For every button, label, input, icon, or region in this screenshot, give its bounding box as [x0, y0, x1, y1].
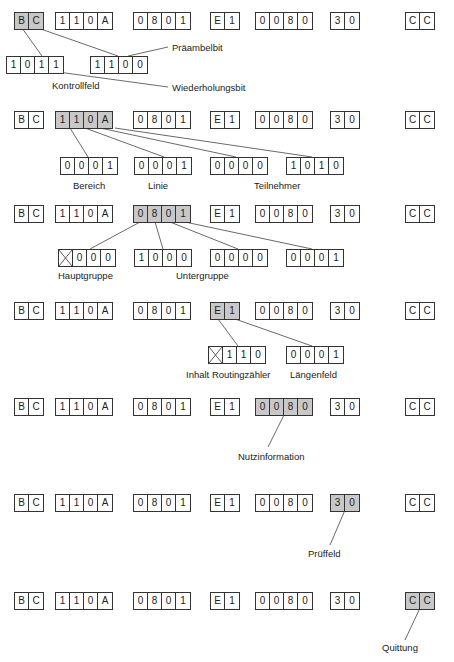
cell: C	[420, 399, 434, 415]
cell: B	[15, 495, 29, 511]
cell: 0	[345, 495, 359, 511]
cell: A	[98, 593, 112, 609]
cell: 0	[61, 158, 75, 174]
frame-field-group: 0801	[133, 398, 191, 416]
cell: 0	[270, 303, 284, 319]
cell: 0	[256, 303, 270, 319]
cell: 8	[148, 112, 162, 128]
cell: C	[29, 112, 43, 128]
cell: 0	[177, 250, 191, 266]
cell: C	[29, 206, 43, 222]
cell: 0	[119, 57, 133, 73]
cell: 1	[177, 158, 191, 174]
cell: 0	[287, 347, 301, 363]
cell: C	[406, 399, 420, 415]
cell: E	[211, 303, 225, 319]
cell: 0	[239, 250, 253, 266]
cell: 0	[301, 347, 315, 363]
cell	[59, 250, 73, 266]
field-label: Bereich	[73, 180, 105, 191]
cell: 0	[270, 495, 284, 511]
cell: A	[98, 495, 112, 511]
cell: 1	[70, 206, 84, 222]
cell: C	[420, 13, 434, 29]
sub-field: 0000	[210, 249, 268, 267]
cell: C	[406, 303, 420, 319]
frame-field-check: 30	[330, 494, 360, 512]
cell: 0	[301, 250, 315, 266]
cell: 0	[270, 399, 284, 415]
connector-lines	[0, 0, 454, 662]
cell: 8	[284, 303, 298, 319]
cell: 0	[89, 158, 103, 174]
cell: 1	[223, 347, 237, 363]
cell: 8	[284, 112, 298, 128]
cell: 0	[134, 593, 148, 609]
cell: 1	[70, 495, 84, 511]
cell: 0	[256, 206, 270, 222]
frame-field-addr: 110A	[55, 494, 113, 512]
cell: 1	[287, 158, 301, 174]
cell: 0	[134, 303, 148, 319]
frame-field-ack: CC	[405, 398, 435, 416]
cell: 0	[134, 399, 148, 415]
cell: B	[15, 303, 29, 319]
cell: 1	[56, 303, 70, 319]
frame-field-data: 0080	[255, 592, 313, 610]
field-label: Quittung	[382, 642, 418, 653]
frame-field-ack: CC	[405, 205, 435, 223]
frame-field-bc: BC	[14, 205, 44, 223]
cell: 8	[148, 593, 162, 609]
cell: C	[29, 593, 43, 609]
cell: 1	[56, 399, 70, 415]
cell: 0	[162, 206, 176, 222]
frame-field-check: 30	[330, 398, 360, 416]
cell: 1	[237, 347, 251, 363]
cell: 1	[56, 495, 70, 511]
cell: B	[15, 593, 29, 609]
cell: 0	[84, 399, 98, 415]
frame-field-data: 0080	[255, 111, 313, 129]
cell: 1	[176, 206, 190, 222]
cell: E	[211, 495, 225, 511]
cell: 0	[21, 57, 35, 73]
cell: 0	[162, 593, 176, 609]
cell: 0	[298, 206, 312, 222]
cell: 0	[345, 399, 359, 415]
cell: 1	[91, 57, 105, 73]
cell: 0	[84, 593, 98, 609]
cell: 1	[7, 57, 21, 73]
cell: 1	[103, 158, 117, 174]
frame-field-data: 0080	[255, 205, 313, 223]
cell: A	[98, 112, 112, 128]
frame-field-data: 0080	[255, 12, 313, 30]
frame-field-addr: 110A	[55, 302, 113, 320]
sub-field: 0000	[210, 157, 268, 175]
cell: 0	[301, 158, 315, 174]
cell: C	[29, 399, 43, 415]
cell: C	[406, 112, 420, 128]
cell: C	[406, 206, 420, 222]
frame-field-addr: 110A	[55, 592, 113, 610]
frame-field-bc: BC	[14, 12, 44, 30]
cell: 0	[84, 303, 98, 319]
cell: 1	[225, 495, 239, 511]
cell: 1	[135, 250, 149, 266]
frame-field-data: 0080	[255, 494, 313, 512]
frame-field-check: 30	[330, 12, 360, 30]
cell: B	[15, 399, 29, 415]
frame-field-check: 30	[330, 302, 360, 320]
cell: 0	[84, 13, 98, 29]
cell: 3	[331, 13, 345, 29]
sub-field: 0001	[286, 346, 344, 364]
crossed-box-icon	[209, 347, 222, 363]
cell: 1	[49, 57, 63, 73]
cell: 0	[211, 250, 225, 266]
cell: 0	[163, 158, 177, 174]
cell: 0	[315, 250, 329, 266]
frame-field-e1: E1	[210, 592, 240, 610]
cell: 8	[148, 13, 162, 29]
cell: 8	[284, 593, 298, 609]
sub-field: 1011	[6, 56, 64, 74]
cell: 0	[345, 13, 359, 29]
